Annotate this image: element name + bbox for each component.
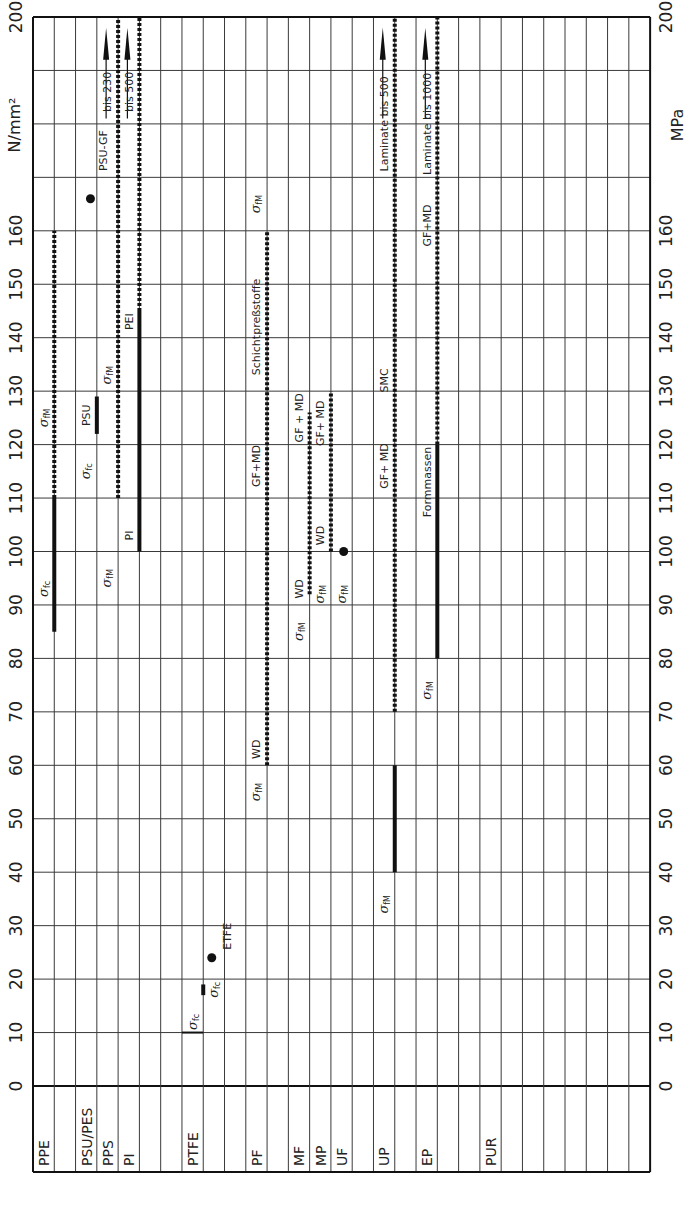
tick-label-right: 110 <box>656 482 676 514</box>
annotation-label: WD <box>250 740 263 759</box>
annotation-label: Formmassen <box>421 447 434 517</box>
annotation-label: GF+ MD <box>378 443 391 489</box>
category-label: PI <box>121 1153 137 1166</box>
annotation-label: SMC <box>378 368 391 392</box>
sigma-label: σfc <box>185 1014 201 1030</box>
tick-label-right: 200 <box>656 1 676 33</box>
sigma-label: σfc <box>206 982 222 998</box>
sigma-label: σfM <box>99 569 115 588</box>
sigma-label: σfM <box>99 366 115 385</box>
tick-label-right: 160 <box>656 215 676 247</box>
annotation-label: ETFE <box>221 923 234 950</box>
annotation-label: GF+MD <box>250 445 263 487</box>
tick-label-left: 30 <box>6 915 26 937</box>
sigma-label: σfM <box>248 783 264 802</box>
tick-label-left: 20 <box>6 968 26 990</box>
annotation-label: bis 230 <box>101 72 114 112</box>
category-label: PPE <box>36 1140 52 1166</box>
category-label: PTFE <box>185 1132 201 1166</box>
tick-label-left: 110 <box>6 482 26 514</box>
tick-label-right: 10 <box>656 1022 676 1044</box>
data-point <box>339 547 348 556</box>
category-label: PUR <box>483 1137 499 1166</box>
left-unit-label: N/mm² <box>5 98 24 153</box>
arrow-up-icon <box>380 28 386 60</box>
category-label: UP <box>376 1147 392 1166</box>
sigma-label: σfM <box>419 681 435 700</box>
annotation-label: GF+ MD <box>314 400 327 446</box>
tick-label-left: 60 <box>6 754 26 776</box>
arrow-up-icon <box>422 28 428 60</box>
sigma-label: σfM <box>334 585 350 604</box>
tick-label-right: 100 <box>656 535 676 567</box>
tick-label-left: 80 <box>6 648 26 670</box>
tick-label-right: 50 <box>656 808 676 830</box>
tick-label-right: 130 <box>656 375 676 407</box>
category-label: MP <box>313 1145 329 1166</box>
tick-label-left: 100 <box>6 535 26 567</box>
tick-label-right: 60 <box>656 754 676 776</box>
category-label: MF <box>291 1146 307 1166</box>
sigma-label: σfM <box>291 622 307 641</box>
right-unit-label: MPa <box>668 109 687 142</box>
tick-label-right: 0 <box>656 1081 676 1092</box>
tick-label-left: 0 <box>6 1081 26 1092</box>
tick-label-right: 80 <box>656 648 676 670</box>
category-label: EP <box>419 1149 435 1166</box>
annotation-label: PSU-GF <box>97 130 110 171</box>
tick-label-right: 140 <box>656 321 676 353</box>
tick-label-right: 70 <box>656 701 676 723</box>
tick-label-right: 40 <box>656 861 676 883</box>
tick-label-left: 90 <box>6 594 26 616</box>
annotation-label: GF + MD <box>293 393 306 442</box>
sigma-label: σfM <box>248 195 264 214</box>
annotation-label: PEI <box>123 313 136 330</box>
tick-label-left: 130 <box>6 375 26 407</box>
tick-label-left: 150 <box>6 268 26 300</box>
annotation-label: Schichtpreßstoffe <box>250 279 263 376</box>
tick-label-right: 90 <box>656 594 676 616</box>
annotation-label: GF+MD <box>421 204 434 246</box>
tick-label-left: 40 <box>6 861 26 883</box>
annotation-label: Laminate bis 500 <box>378 76 391 171</box>
sigma-label: σfM <box>36 408 52 427</box>
tick-label-left: 10 <box>6 1022 26 1044</box>
category-label: PPS <box>100 1140 116 1166</box>
category-label: PSU/PES <box>79 1107 95 1166</box>
sigma-label: σfM <box>312 585 328 604</box>
tick-label-left: 120 <box>6 428 26 460</box>
sigma-label: σfc <box>78 463 94 479</box>
tick-label-right: 30 <box>656 915 676 937</box>
sigma-label: σfc <box>36 581 52 597</box>
tick-label-right: 150 <box>656 268 676 300</box>
arrow-up-icon <box>124 28 130 60</box>
annotation-label: bis 500 <box>123 72 136 112</box>
arrow-up-icon <box>103 28 109 60</box>
tick-label-left: 160 <box>6 215 26 247</box>
tick-label-left: 50 <box>6 808 26 830</box>
tick-label-right: 20 <box>656 968 676 990</box>
tick-label-left: 140 <box>6 321 26 353</box>
category-label: PF <box>249 1150 265 1167</box>
annotation-label: PSU <box>80 404 93 426</box>
tick-label-left: 70 <box>6 701 26 723</box>
annotation-label: WD <box>314 526 327 545</box>
sigma-label: σfM <box>376 895 392 914</box>
annotation-label: PI <box>123 531 136 541</box>
data-point <box>207 953 216 962</box>
annotation-label: Laminate bis 1000 <box>421 73 434 175</box>
category-label: UF <box>334 1148 350 1166</box>
tick-label-left: 200 <box>6 1 26 33</box>
tick-label-right: 120 <box>656 428 676 460</box>
strength-chart: σfcσfMσfcPSUσfMPIσfMPEIbis 230bis 500PSU… <box>0 0 700 1210</box>
data-point <box>86 194 95 203</box>
annotations: σfcσfMσfcPSUσfMPIσfMPEIbis 230bis 500PSU… <box>36 72 435 1030</box>
annotation-label: WD <box>293 579 306 598</box>
